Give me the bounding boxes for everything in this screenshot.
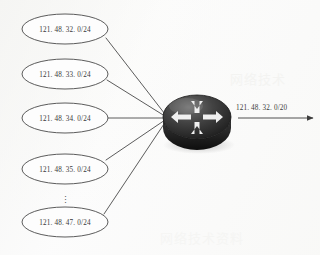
watermark-bottom-right: 网络技术资料 <box>160 231 244 246</box>
subnet-label-3: 121. 48. 34. 0/24 <box>39 115 91 123</box>
subnet-label-1: 121. 48. 32. 0/24 <box>39 26 91 34</box>
connector-line-5 <box>104 118 168 214</box>
aggregate-route: 121. 48. 32. 0/20 <box>236 104 313 118</box>
subnet-node-4[interactable]: 121. 48. 35. 0/24 <box>22 154 108 184</box>
subnet-label-2: 121. 48. 33. 0/24 <box>39 71 91 79</box>
connector-line-4 <box>106 118 168 160</box>
aggregate-route-label: 121. 48. 32. 0/20 <box>236 104 288 112</box>
subnet-node-1[interactable]: 121. 48. 32. 0/24 <box>22 14 108 44</box>
subnet-node-2[interactable]: 121. 48. 33. 0/24 <box>22 59 108 89</box>
network-diagram-canvas: 网络技术 网络技术资料 121. 48. 32. 0/24 121. 48. 3… <box>0 0 320 255</box>
router-icon[interactable] <box>163 95 235 154</box>
connector-line-2 <box>107 80 168 118</box>
connector-lines <box>104 38 168 214</box>
diagram-svg: 网络技术 网络技术资料 121. 48. 32. 0/24 121. 48. 3… <box>0 0 320 255</box>
watermark-top-right: 网络技术 <box>230 72 286 87</box>
connector-line-1 <box>106 38 168 118</box>
subnet-node-3[interactable]: 121. 48. 34. 0/24 <box>22 103 108 133</box>
subnet-label-5: 121. 48. 47. 0/24 <box>39 219 91 227</box>
subnet-node-5[interactable]: 121. 48. 47. 0/24 <box>22 207 108 237</box>
subnet-label-4: 121. 48. 35. 0/24 <box>39 166 91 174</box>
continuation-ellipsis-mark: ⋮ <box>61 195 70 205</box>
